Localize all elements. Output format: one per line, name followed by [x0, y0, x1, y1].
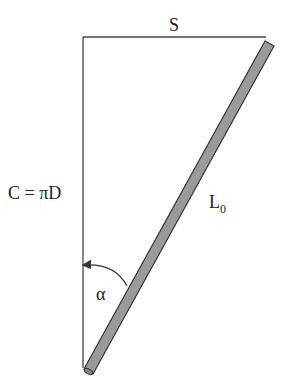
helix-unwrap-diagram: S C = πD L0 α: [0, 0, 292, 387]
label-rod-length: L0: [209, 192, 226, 216]
angle-arc: [84, 265, 127, 286]
label-circumference: C = πD: [8, 183, 61, 203]
label-s: S: [169, 15, 179, 35]
label-rod-letter: L: [209, 192, 220, 212]
label-alpha: α: [96, 284, 106, 304]
rod: [83, 41, 274, 376]
label-rod-subscript: 0: [220, 202, 226, 216]
